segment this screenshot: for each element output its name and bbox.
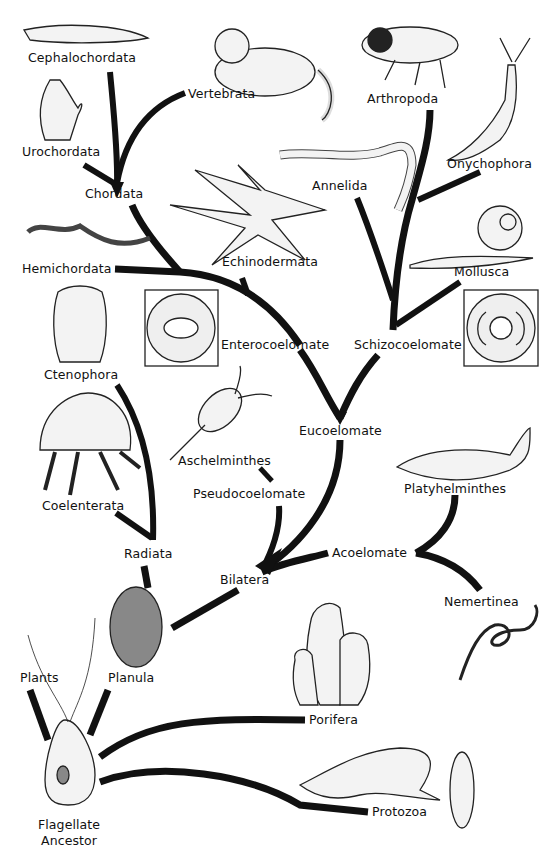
label-mollusca: Mollusca [454,266,509,279]
label-cephalochordata: Cephalochordata [28,52,136,65]
label-vertebrata: Vertebrata [188,88,255,101]
comb-jelly-illustration [54,286,107,362]
label-schizocoelomate: Schizocoelomate [354,339,462,352]
label-annelida: Annelida [312,180,367,193]
label-enterocoelomate: Enterocoelomate [221,339,329,352]
label-chordata: Chordata [85,188,143,201]
jellyfish-illustration [40,393,140,495]
label-echinodermata: Echinodermata [222,256,318,269]
label-onychophora: Onychophora [447,158,532,171]
label-protozoa: Protozoa [372,806,427,819]
rotifer-illustration [170,366,272,460]
enterocoel-cross-section [145,290,218,366]
label-porifera: Porifera [309,714,358,727]
lancelet-illustration [24,25,148,42]
amoeba-illustration [300,748,440,800]
label-aschelminthes: Aschelminthes [178,455,271,468]
planula-illustration [110,587,162,667]
label-plants: Plants [20,672,59,685]
label-nemertinea: Nemertinea [444,596,519,609]
label-hemichordata: Hemichordata [22,263,111,276]
starfish-illustration [170,165,325,265]
phylogenetic-tree-diagram: Cephalochordata Vertebrata Urochordata C… [0,0,552,863]
cat-illustration [215,29,331,120]
label-ctenophora: Ctenophora [44,369,118,382]
label-radiata: Radiata [124,548,172,561]
tunicate-illustration [40,80,82,140]
label-eucoelomate: Eucoelomate [299,425,382,438]
ribbon-worm-illustration [460,605,537,680]
label-flagellate-ancestor: Flagellate Ancestor [38,817,100,848]
paramecium-illustration [450,752,474,828]
acorn-worm-illustration [28,226,150,243]
label-urochordata: Urochordata [22,146,100,159]
snail-illustration [410,206,533,268]
label-acoelomate: Acoelomate [332,547,407,560]
label-bilatera: Bilatera [220,574,269,587]
velvet-worm-illustration [448,65,516,160]
flagellate-illustration [28,618,95,805]
label-pseudocoelomate: Pseudocoelomate [193,488,305,501]
label-planula: Planula [108,672,154,685]
label-arthropoda: Arthropoda [367,93,438,106]
flatworm-illustration [397,428,530,480]
cicada-illustration [362,27,458,88]
label-coelenterata: Coelenterata [42,500,124,513]
sponge-illustration [293,603,370,705]
label-platyhelminthes: Platyhelminthes [404,483,506,496]
schizocoel-cross-section [464,290,538,366]
organism-illustrations [0,0,552,863]
